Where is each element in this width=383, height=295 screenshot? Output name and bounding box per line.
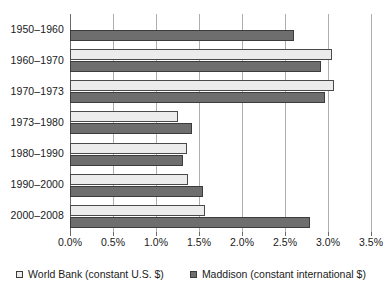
bar-slot	[70, 111, 371, 122]
bar-slot	[70, 217, 371, 228]
bar-group	[70, 14, 371, 45]
x-tick-label: 1.0%	[144, 236, 168, 248]
x-tick-label: 3.5%	[359, 236, 383, 248]
category-label: 1970–1973	[0, 85, 64, 97]
category-label: 1990–2000	[0, 178, 64, 190]
legend-item-maddison[interactable]: Maddison (constant international $)	[190, 268, 366, 280]
x-tick-label: 0.5%	[101, 236, 125, 248]
plot-area	[70, 14, 371, 232]
legend-swatch-icon	[16, 271, 23, 278]
x-axis-labels: 0.0%0.5%1.0%1.5%2.0%2.5%3.0%3.5%	[70, 236, 371, 252]
bar-maddison-2	[70, 92, 325, 103]
gridline	[371, 14, 372, 232]
category-label: 2000–2008	[0, 209, 64, 221]
x-tick-label: 0.0%	[58, 236, 82, 248]
bar-worldbank-4	[70, 143, 187, 154]
bar-slot	[70, 174, 371, 185]
bar-group	[70, 201, 371, 232]
bar-worldbank-1	[70, 49, 332, 60]
legend-label: Maddison (constant international $)	[202, 268, 366, 280]
bar-slot	[70, 186, 371, 197]
bar-slot	[70, 49, 371, 60]
bar-group	[70, 107, 371, 138]
bar-slot	[70, 205, 371, 216]
category-label: 1980–1990	[0, 147, 64, 159]
bar-slot	[70, 80, 371, 91]
legend-item-worldbank[interactable]: World Bank (constant U.S. $)	[16, 268, 164, 280]
x-tick-label: 1.5%	[187, 236, 211, 248]
chart-legend: World Bank (constant U.S. $)Maddison (co…	[0, 268, 382, 280]
bar-group	[70, 139, 371, 170]
category-label: 1973–1980	[0, 116, 64, 128]
bar-maddison-3	[70, 123, 192, 134]
x-tick-label: 2.5%	[273, 236, 297, 248]
bar-worldbank-2	[70, 80, 334, 91]
bar-slot	[70, 143, 371, 154]
bar-worldbank-6	[70, 205, 205, 216]
bar-worldbank-3	[70, 111, 178, 122]
x-tick-label: 2.0%	[230, 236, 254, 248]
x-tick-label: 3.0%	[316, 236, 340, 248]
bar-group	[70, 45, 371, 76]
bar-slot	[70, 18, 371, 29]
bar-slot	[70, 155, 371, 166]
bar-maddison-0	[70, 30, 294, 41]
bar-worldbank-5	[70, 174, 188, 185]
bar-group	[70, 170, 371, 201]
bar-slot	[70, 30, 371, 41]
bar-slot	[70, 61, 371, 72]
bar-slot	[70, 92, 371, 103]
category-label: 1960–1970	[0, 54, 64, 66]
legend-label: World Bank (constant U.S. $)	[28, 268, 164, 280]
bar-slot	[70, 123, 371, 134]
bar-maddison-1	[70, 61, 321, 72]
bar-maddison-5	[70, 186, 203, 197]
bar-group	[70, 76, 371, 107]
category-label: 1950–1960	[0, 23, 64, 35]
bar-maddison-6	[70, 217, 310, 228]
legend-swatch-icon	[190, 271, 197, 278]
bar-maddison-4	[70, 155, 183, 166]
